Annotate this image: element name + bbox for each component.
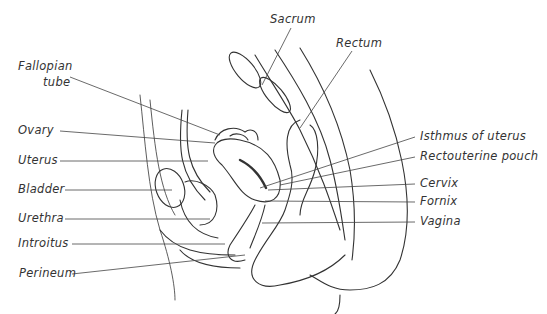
label-fallopian-tube-line1: Fallopian <box>18 58 73 74</box>
label-fallopian-tube-line2: tube <box>18 74 73 90</box>
label-cervix: Cervix <box>420 176 458 190</box>
label-vagina: Vagina <box>420 214 461 228</box>
label-perineum: Perineum <box>19 266 76 280</box>
label-urethra: Urethra <box>18 211 64 225</box>
label-rectum: Rectum <box>336 36 382 50</box>
label-isthmus-of-uterus: Isthmus of uterus <box>420 129 526 143</box>
label-ovary: Ovary <box>18 123 54 137</box>
label-fornix: Fornix <box>420 194 457 208</box>
label-introitus: Introitus <box>18 236 69 250</box>
label-uterus: Uterus <box>18 153 58 167</box>
label-sacrum: Sacrum <box>270 12 316 26</box>
label-bladder: Bladder <box>18 182 65 196</box>
anatomy-diagram: Fallopian tube Ovary Uterus Bladder Uret… <box>0 0 547 314</box>
label-fallopian-tube: Fallopian tube <box>18 58 73 90</box>
label-rectouterine-pouch: Rectouterine pouch <box>420 149 538 163</box>
